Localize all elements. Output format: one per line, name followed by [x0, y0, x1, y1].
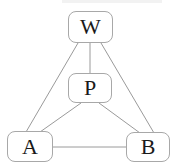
- node-b-label: B: [141, 136, 156, 158]
- node-b: B: [126, 132, 170, 162]
- node-a: A: [7, 131, 53, 162]
- node-a-label: A: [22, 136, 38, 158]
- edge-p-b: [99, 103, 140, 133]
- node-p: P: [68, 73, 112, 103]
- node-p-label: P: [84, 77, 96, 99]
- node-w-label: W: [80, 16, 101, 38]
- node-w: W: [68, 11, 113, 43]
- edge-p-a: [40, 103, 81, 132]
- diagram-canvas: W P A B: [0, 0, 177, 168]
